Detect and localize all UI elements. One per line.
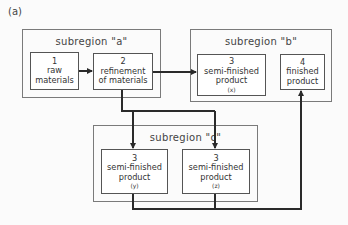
- connector-lines: [0, 0, 348, 225]
